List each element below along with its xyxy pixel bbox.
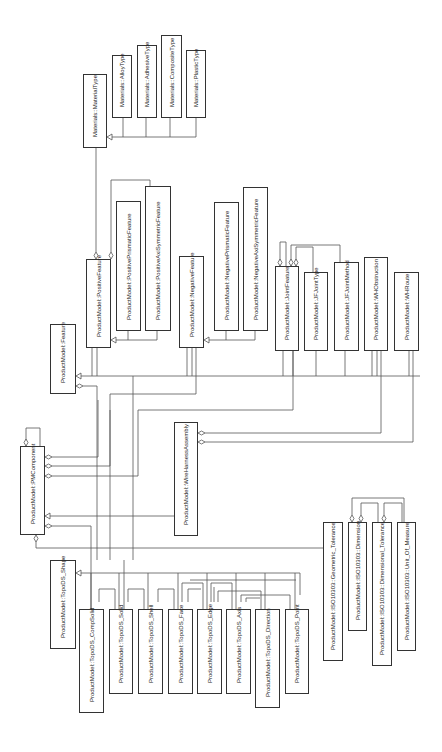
- class-whroute[interactable]: ProductModel::WHRoute: [394, 272, 419, 351]
- class-label: ProductModel::WireHarnessAssembly: [183, 424, 189, 525]
- class-label: ProductModel::JointFeature: [284, 266, 290, 340]
- class-label: ProductModel::TopoDS_Shape: [60, 556, 66, 638]
- class-label: Materials::CompositeType: [169, 38, 175, 107]
- class-label: ProductModel::NegativePrismaticFeature: [224, 211, 230, 320]
- class-whobstruction[interactable]: ProductModel::WHObstruction: [364, 257, 388, 351]
- class-topods-shell[interactable]: ProductModel::TopoDS_Shell: [138, 609, 163, 694]
- class-label: ProductModel::JFJointMethod: [344, 260, 350, 340]
- class-materials-materialtype[interactable]: Materials::MaterialType: [83, 74, 107, 148]
- class-label: ProductModel::JFJointType: [313, 267, 319, 340]
- class-label: Materials::AlloyType: [119, 53, 125, 107]
- class-label: ProductModel::TopoDS_Shell: [148, 605, 154, 683]
- class-label: ProductModel::TopoDS_Solid: [118, 605, 124, 683]
- class-label: ProductModel::Feature: [60, 322, 66, 383]
- class-pmcomponent[interactable]: ProductModel::PMComponent: [20, 446, 45, 535]
- class-iso10303-dimensional-tolerance[interactable]: ProductModel::ISO10303::Dimensional_Tole…: [372, 522, 392, 666]
- class-topods-axis[interactable]: ProductModel::TopoDS_Axis: [226, 609, 251, 694]
- class-jfjointmethod[interactable]: ProductModel::JFJointMethod: [334, 262, 359, 351]
- class-topods-direction[interactable]: ProductModel::TopoDS_Direction: [255, 609, 280, 708]
- class-topods-solid[interactable]: ProductModel::TopoDS_Solid: [109, 609, 133, 694]
- class-label: ProductModel::WHObstruction: [373, 259, 379, 340]
- class-label: ProductModel::PositiveAxiSymmetricFeatur…: [155, 201, 161, 320]
- class-label: ProductModel::ISO10303::Geometric_Tolera…: [330, 522, 336, 650]
- class-topods-point[interactable]: ProductModel::TopoDS_Point: [285, 609, 309, 694]
- uml-diagram-canvas: Materials::MaterialType Materials::Alloy…: [0, 0, 442, 752]
- class-label: ProductModel::TopoDS_Edge: [207, 604, 213, 683]
- class-label: ProductModel::TopoDS_Face: [178, 605, 184, 683]
- class-label: ProductModel::WHRoute: [404, 274, 410, 340]
- class-label: ProductModel::PositiveFeature: [96, 255, 102, 337]
- class-iso10303-unit-of-measure[interactable]: ProductModel::ISO10303::Unit_Of_Measure: [397, 522, 416, 651]
- class-feature[interactable]: ProductModel::Feature: [50, 324, 76, 394]
- class-topods-face[interactable]: ProductModel::TopoDS_Face: [168, 609, 193, 694]
- class-iso10303-geometric-tolerance[interactable]: ProductModel::ISO10303::Geometric_Tolera…: [323, 522, 343, 661]
- class-label: ProductModel::ISO10303::Dimensional_Tole…: [379, 522, 385, 655]
- class-label: Materials::MaterialType: [92, 75, 98, 137]
- class-label: Materials::PlasticType: [193, 49, 199, 107]
- class-topods-edge[interactable]: ProductModel::TopoDS_Edge: [197, 609, 222, 694]
- class-label: ProductModel::ISO10303::Dimension: [355, 521, 361, 620]
- class-jfjointtype[interactable]: ProductModel::JFJointType: [304, 272, 328, 351]
- class-label: ProductModel::PositivePrismaticFeature: [126, 213, 132, 320]
- class-materials-plastictype[interactable]: Materials::PlasticType: [186, 50, 206, 118]
- class-label: ProductModel::PMComponent: [30, 444, 36, 524]
- class-label: ProductModel::TopoDS_CompSolid: [89, 608, 95, 702]
- class-negativeaxisymmetricfeature[interactable]: ProductModel::NegativeAxiSymmetricFeatur…: [243, 187, 268, 331]
- class-negativeprismaticfeature[interactable]: ProductModel::NegativePrismaticFeature: [214, 202, 239, 331]
- class-topods-shape[interactable]: ProductModel::TopoDS_Shape: [50, 560, 76, 649]
- class-jointfeature[interactable]: ProductModel::JointFeature: [275, 266, 299, 351]
- class-iso10303-dimension[interactable]: ProductModel::ISO10303::Dimension: [348, 522, 367, 631]
- class-label: ProductModel::ISO10303::Unit_Of_Measure: [404, 522, 410, 640]
- class-materials-alloytype[interactable]: Materials::AlloyType: [112, 55, 132, 118]
- class-topods-compsolid[interactable]: ProductModel::TopoDS_CompSolid: [79, 609, 104, 713]
- class-positivefeature[interactable]: ProductModel::PositiveFeature: [86, 259, 111, 348]
- class-wireharnessassembly[interactable]: ProductModel::WireHarnessAssembly: [174, 422, 198, 536]
- class-positiveprismaticfeature[interactable]: ProductModel::PositivePrismaticFeature: [116, 201, 141, 331]
- class-label: ProductModel::TopoDS_Direction: [265, 608, 271, 697]
- class-label: ProductModel::NegativeAxiSymmetricFeatur…: [253, 199, 259, 320]
- class-materials-compositetype[interactable]: Materials::CompositeType: [161, 35, 182, 118]
- class-label: ProductModel::NegativeFeature: [189, 252, 195, 337]
- class-materials-adhesivetype[interactable]: Materials::AdhesiveType: [137, 45, 157, 118]
- class-positiveaxisymmetricfeature[interactable]: ProductModel::PositiveAxiSymmetricFeatur…: [145, 186, 171, 331]
- class-label: ProductModel::TopoDS_Axis: [236, 607, 242, 683]
- class-negativefeature[interactable]: ProductModel::NegativeFeature: [179, 256, 204, 348]
- class-label: Materials::AdhesiveType: [144, 42, 150, 107]
- class-label: ProductModel::TopoDS_Point: [294, 604, 300, 683]
